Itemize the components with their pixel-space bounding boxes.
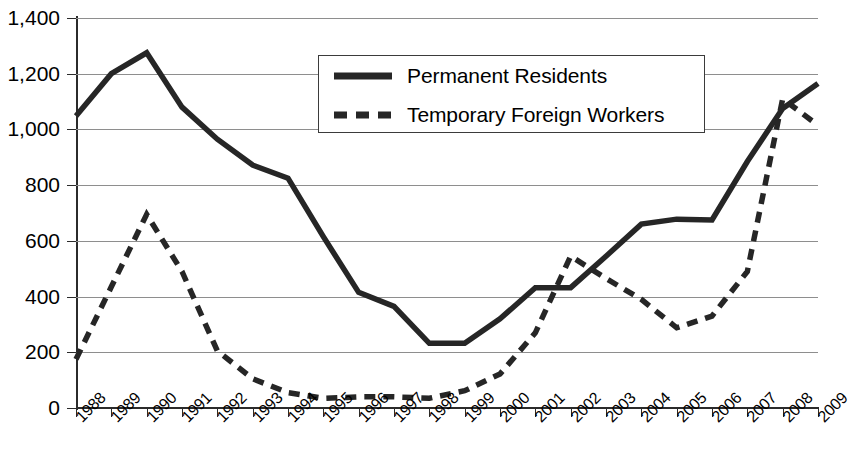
y-axis-tick-label: 200	[0, 341, 60, 362]
y-axis-tick	[67, 352, 76, 353]
legend-solid-line-icon	[333, 62, 393, 90]
y-axis-tick-label: 600	[0, 230, 60, 251]
series-line-2	[76, 99, 818, 398]
y-axis-tick-label: 1,400	[0, 7, 60, 28]
legend-item-permanent-residents: Permanent Residents	[319, 56, 704, 95]
chart-legend: Permanent Residents Temporary Foreign Wo…	[318, 55, 705, 133]
y-axis-tick-label: 1,200	[0, 63, 60, 84]
y-axis-tick	[67, 129, 76, 130]
legend-label-permanent-residents: Permanent Residents	[407, 65, 607, 86]
y-axis-tick	[67, 185, 76, 186]
x-axis-tick-label: 2009	[815, 390, 851, 426]
y-axis-tick-label: 400	[0, 286, 60, 307]
legend-label-temporary-foreign-workers: Temporary Foreign Workers	[407, 104, 664, 125]
y-axis-tick	[67, 297, 76, 298]
y-axis-tick-label: 0	[0, 397, 60, 418]
legend-dashed-line-icon	[333, 101, 393, 129]
y-axis-tick	[67, 241, 76, 242]
y-axis-tick-label: 800	[0, 174, 60, 195]
y-axis-tick-label: 1,000	[0, 118, 60, 139]
y-axis-tick	[67, 408, 76, 409]
y-axis-tick	[67, 18, 76, 19]
y-axis-tick	[67, 74, 76, 75]
legend-item-temporary-foreign-workers: Temporary Foreign Workers	[319, 95, 704, 134]
